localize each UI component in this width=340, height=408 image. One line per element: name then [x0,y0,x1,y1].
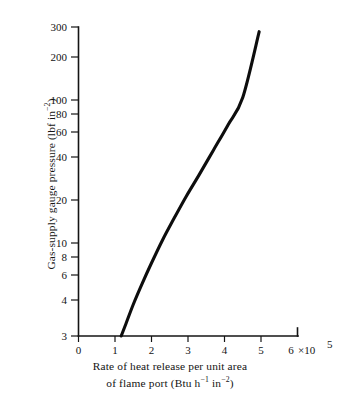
x-tick-label-2: 2 [149,344,155,356]
y-axis-title-prefix: Gas-supply gauge pressure (lbf in [45,111,57,270]
y-tick-label-10: 10 [56,237,68,249]
x-tick-label-1: 1 [112,344,118,356]
y-tick-label-80: 80 [56,108,68,120]
x-axis-title: Rate of heat release per unit area of fl… [0,358,340,391]
y-tick-label-60: 60 [56,126,68,138]
x-axis-tick-labels: 0 1 2 3 4 5 6 ×10 5 [76,338,333,356]
x-tick-label-5: 5 [258,344,264,356]
x-axis-exponent-power: 5 [327,338,333,350]
x-axis-title-sup2: −2 [221,375,230,384]
x-axis-title-line2: of flame port (Btu h−1 in−2) [106,377,233,389]
y-tick-label-20: 20 [56,194,68,206]
data-series-group [121,32,259,336]
x-axis-title-sup1: −1 [200,375,209,384]
x-tick-label-6: 6 [288,344,294,356]
x-axis-ticks [79,336,262,342]
y-tick-label-6: 6 [62,269,68,281]
y-tick-label-8: 8 [62,251,68,263]
y-tick-label-3: 3 [62,330,68,342]
x-axis-exponent-base: ×10 [298,344,316,356]
x-axis-title-line2-suffix: ) [230,377,234,389]
y-tick-label-40: 40 [56,151,68,163]
y-tick-label-4: 4 [62,294,68,306]
x-axis-title-line2-prefix: of flame port (Btu h [106,377,200,389]
x-tick-label-0: 0 [76,344,82,356]
y-axis-title-sup: −2 [43,102,52,111]
axes-group [79,27,299,336]
x-tick-label-4: 4 [222,344,228,356]
x-axis-title-line1: Rate of heat release per unit area [93,360,247,372]
y-axis-title: Gas-supply gauge pressure (lbf in−2) [45,39,57,329]
figure-container: 300 200 100 80 60 40 20 10 8 6 4 3 0 1 2 [0,0,340,408]
y-tick-label-300: 300 [51,21,68,33]
y-axis-ticks [71,27,79,336]
x-tick-label-3: 3 [185,344,191,356]
y-axis-title-suffix: ) [45,98,57,102]
data-curve-line [121,32,259,336]
x-axis-title-line2-mid: in [209,377,221,389]
